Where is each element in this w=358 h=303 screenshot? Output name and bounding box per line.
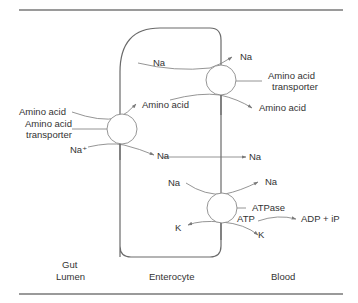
enterocyte-outline	[120, 28, 221, 257]
atpase-k-out-label: K	[258, 229, 265, 240]
atpase-k-in-label: K	[175, 222, 182, 233]
region-enterocyte-label: Enterocyte	[149, 271, 194, 282]
adp-label: ADP + iP	[301, 213, 340, 224]
apical-transporter-icon	[107, 114, 137, 144]
sodium-flow-to-label: Na	[249, 151, 262, 162]
apical-transporter-label-2: transporter	[26, 129, 72, 140]
basolateral-aa-out-label: Amino acid	[259, 102, 306, 113]
region-lumen-label-2: Lumen	[56, 271, 85, 282]
enterocyte-diagram: Amino acid Amino acid transporter Na⁺ Am…	[0, 0, 358, 303]
apical-na-in-label: Na⁺	[70, 144, 87, 155]
basolateral-transporter-icon	[206, 65, 236, 95]
atpase-na-in-label: Na	[168, 177, 181, 188]
region-blood-label: Blood	[271, 271, 295, 282]
basolateral-na-in-label: Na	[153, 57, 166, 68]
atpase-na-flow	[186, 182, 258, 194]
basolateral-transporter-label-1: Amino acid	[268, 70, 315, 81]
atpase-label: ATPase	[252, 202, 285, 213]
apical-aa-out-label: Amino acid	[142, 99, 189, 110]
apical-na-flow	[88, 144, 154, 155]
apical-na-out-label: Na	[157, 150, 170, 161]
basolateral-transporter-label-2: transporter	[272, 81, 318, 92]
atpase-pump-icon	[207, 193, 237, 223]
atp-to-adp-arrow	[258, 217, 296, 221]
apical-aa-in-label: Amino acid	[19, 106, 66, 117]
apical-transporter-label-1: Amino acid	[25, 118, 72, 129]
atp-label: ATP	[237, 213, 255, 224]
region-lumen-label-1: Gut	[62, 259, 78, 270]
atpase-na-out-label: Na	[265, 176, 278, 187]
basolateral-na-out-label: Na	[240, 51, 253, 62]
